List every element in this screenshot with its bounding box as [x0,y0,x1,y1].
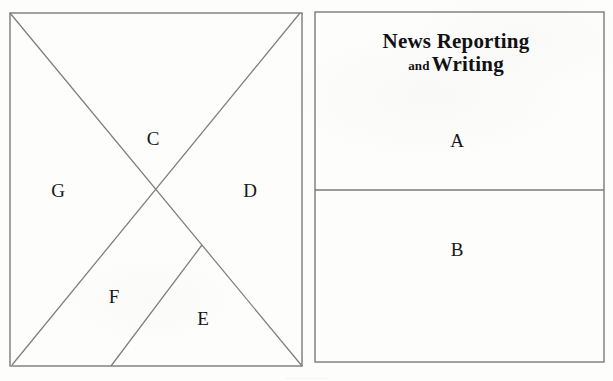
book-title-main-word: Writing [432,52,504,76]
region-label-c: C [147,129,160,148]
region-label-g: G [51,181,65,200]
region-label-d: D [243,181,257,200]
book-title-conjunction: and [408,58,432,73]
book-title-line-1: News Reporting [383,30,530,53]
book-title-line-2: andWriting [383,53,530,76]
left-figure-branch-line [111,245,202,366]
book-cover-title: News Reporting andWriting [383,30,530,75]
region-label-a: A [450,131,464,150]
region-label-b: B [451,240,464,259]
region-label-e: E [197,309,209,328]
region-label-f: F [109,287,120,306]
